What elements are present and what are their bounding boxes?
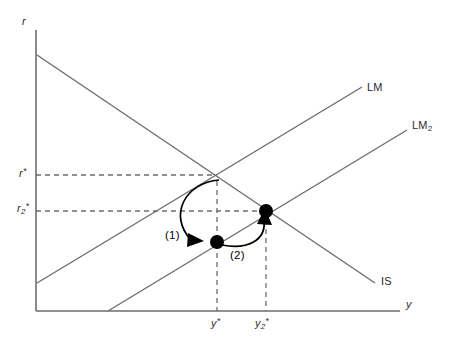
lm2-curve-label-text: LM (412, 119, 428, 131)
diagram-canvas (0, 0, 453, 347)
annotation-step-2: (2) (230, 250, 245, 262)
tick-label-r2-star: r2* (17, 202, 29, 216)
lm2-curve-label-sub: 2 (428, 124, 433, 133)
is-lm-figure: r y LM LM2 IS r* r2* y* y2* (1) (2) (0, 0, 453, 347)
lm2-curve-label: LM2 (412, 120, 432, 133)
adjustment-arrow-1 (180, 180, 219, 240)
point-equilibrium-new (259, 204, 273, 218)
tick-label-y-star: y* (211, 317, 220, 329)
is-curve-label: IS (381, 276, 392, 287)
lm-curve-label: LM (367, 82, 383, 93)
adjustment-arrow-1-head (187, 233, 204, 247)
point-equilibrium-intermediate (210, 235, 224, 249)
x-axis-label: y (406, 299, 412, 310)
tick-label-y-star-sup: * (217, 316, 221, 326)
tick-label-r2-star-sup: * (26, 201, 30, 211)
tick-label-r-star-sup: * (23, 166, 27, 176)
tick-label-r-star: r* (19, 167, 27, 179)
adjustment-arrow-2 (222, 221, 264, 246)
lm2-curve (108, 130, 407, 311)
is-curve (37, 55, 375, 283)
tick-label-y2-star-sup: * (265, 316, 269, 326)
y-axis-label: r (22, 16, 26, 27)
annotation-step-1: (1) (165, 230, 180, 242)
tick-label-y2-star: y2* (255, 317, 269, 331)
